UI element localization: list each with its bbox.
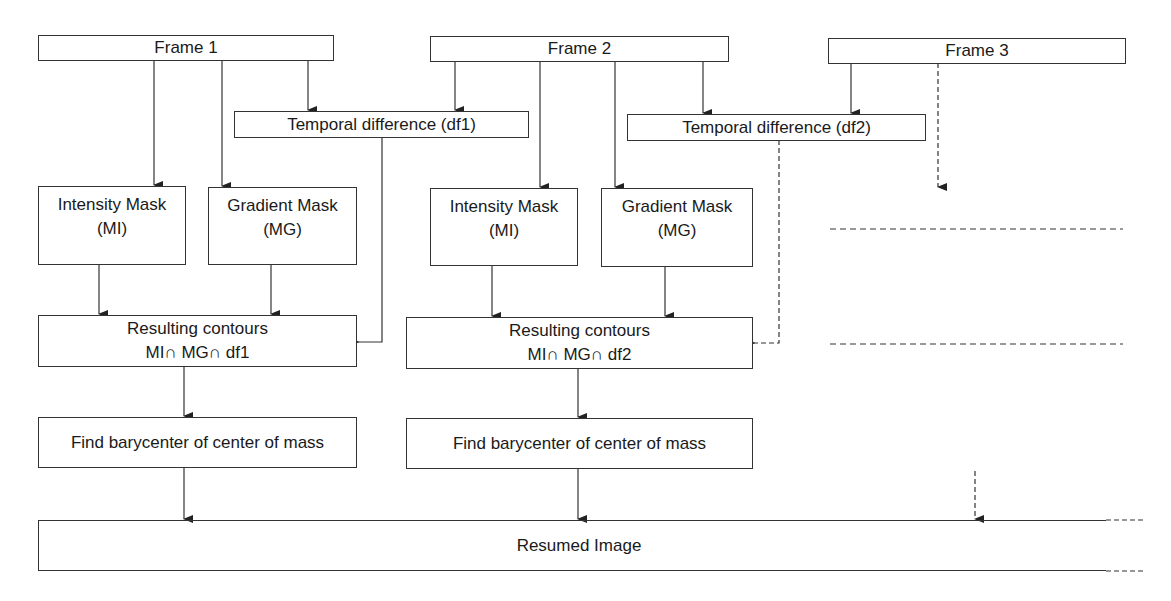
frame-1-label: Frame 1 [154, 36, 217, 60]
intensity-mask-1-title: Intensity Mask [58, 193, 167, 217]
gradient-mask-1-abbr: (MG) [263, 218, 302, 242]
gradient-mask-2-title: Gradient Mask [622, 195, 733, 219]
temporal-difference-df2-box: Temporal difference (df2) [627, 114, 926, 141]
frame-2-label: Frame 2 [548, 37, 611, 61]
resulting-contours-1-title: Resulting contours [127, 317, 268, 341]
intensity-mask-1-box: Intensity Mask (MI) [38, 186, 186, 265]
temporal-difference-df1-label: Temporal difference (df1) [287, 113, 476, 137]
barycenter-2-box: Find barycenter of center of mass [406, 418, 753, 469]
intensity-mask-2-title: Intensity Mask [450, 195, 559, 219]
frame-3-label: Frame 3 [945, 39, 1008, 63]
gradient-mask-1-title: Gradient Mask [227, 194, 338, 218]
arrow-df1-to-contours1 [358, 137, 382, 342]
resulting-contours-1-box: Resulting contours MI∩ MG∩ df1 [38, 315, 357, 367]
resulting-contours-2-box: Resulting contours MI∩ MG∩ df2 [406, 317, 753, 369]
frame-1-box: Frame 1 [38, 35, 334, 61]
resumed-image-box: Resumed Image [38, 520, 1106, 571]
gradient-mask-2-box: Gradient Mask (MG) [601, 188, 753, 267]
barycenter-2-label: Find barycenter of center of mass [453, 432, 706, 456]
intensity-mask-1-abbr: (MI) [97, 217, 127, 241]
frame-3-box: Frame 3 [828, 38, 1126, 64]
resulting-contours-2-title: Resulting contours [509, 319, 650, 343]
gradient-mask-2-abbr: (MG) [658, 219, 697, 243]
arrow-df2-to-contours2 [754, 140, 779, 343]
resumed-image-label: Resumed Image [517, 536, 642, 556]
connector-layer [0, 0, 1171, 601]
temporal-difference-df1-box: Temporal difference (df1) [234, 111, 529, 138]
barycenter-1-box: Find barycenter of center of mass [38, 417, 357, 468]
temporal-difference-df2-label: Temporal difference (df2) [682, 116, 871, 140]
resulting-contours-1-formula: MI∩ MG∩ df1 [146, 341, 250, 365]
frame-2-box: Frame 2 [430, 36, 729, 62]
intensity-mask-2-abbr: (MI) [489, 219, 519, 243]
intensity-mask-2-box: Intensity Mask (MI) [430, 188, 578, 266]
gradient-mask-1-box: Gradient Mask (MG) [208, 187, 357, 265]
barycenter-1-label: Find barycenter of center of mass [71, 431, 324, 455]
resulting-contours-2-formula: MI∩ MG∩ df2 [528, 343, 632, 367]
